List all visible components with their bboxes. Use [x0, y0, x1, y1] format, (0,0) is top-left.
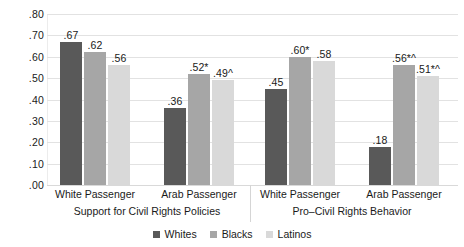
bar-chart: .80.70.60.50.40.30.20.10.00 .67.62.56.36…	[0, 0, 464, 247]
bar-value-label: .51*^	[405, 63, 451, 75]
y-axis-tick-label: .80	[4, 8, 44, 20]
bar	[289, 57, 311, 185]
y-axis-tick-label: .40	[4, 94, 44, 106]
bar	[212, 80, 234, 185]
panel-label: Support for Civil Rights Policies	[42, 205, 252, 217]
bar	[313, 61, 335, 185]
bar-value-label: .49^	[200, 67, 246, 79]
bar	[265, 89, 287, 185]
y-axis-tick-label: .10	[4, 158, 44, 170]
chart-legend: WhitesBlacksLatinos	[0, 226, 464, 242]
bar-value-label: .58	[301, 48, 347, 60]
bar-value-label: .62	[72, 39, 118, 51]
panel-labels: Support for Civil Rights PoliciesPro–Civ…	[47, 203, 458, 222]
legend-item: Latinos	[266, 228, 312, 240]
legend-label: Whites	[165, 228, 197, 240]
bar-value-label: .56	[96, 52, 142, 64]
bars-layer: .67.62.56.36.52*.49^.45.60*.58.18.56*^.5…	[47, 14, 458, 185]
bar	[84, 52, 106, 185]
legend-swatch-icon	[153, 231, 160, 238]
plot-area: .67.62.56.36.52*.49^.45.60*.58.18.56*^.5…	[47, 14, 458, 185]
bar	[393, 65, 415, 185]
bar	[417, 76, 439, 185]
x-axis-category-label: Arab Passenger	[149, 188, 249, 200]
legend-label: Blacks	[222, 228, 253, 240]
bar	[188, 74, 210, 185]
bar	[108, 65, 130, 185]
bar	[369, 147, 391, 185]
y-axis-tick-label: .00	[4, 179, 44, 191]
bar	[60, 42, 82, 185]
panel-divider	[250, 185, 251, 222]
panel-label: Pro–Civil Rights Behavior	[247, 205, 457, 217]
y-axis-tick-label: .50	[4, 72, 44, 84]
y-axis-tick-label: .60	[4, 51, 44, 63]
y-axis-tick-label: .70	[4, 29, 44, 41]
legend-label: Latinos	[278, 228, 312, 240]
legend-item: Blacks	[210, 228, 253, 240]
legend-item: Whites	[153, 228, 197, 240]
x-axis-category-label: White Passenger	[250, 188, 350, 200]
legend-swatch-icon	[210, 231, 217, 238]
x-axis-category-label: Arab Passenger	[354, 188, 454, 200]
y-axis-tick-label: .30	[4, 115, 44, 127]
legend-swatch-icon	[266, 231, 273, 238]
bar	[164, 108, 186, 185]
category-labels: White PassengerArab PassengerWhite Passe…	[47, 186, 458, 203]
x-axis-category-label: White Passenger	[45, 188, 145, 200]
y-axis-tick-label: .20	[4, 136, 44, 148]
y-axis: .80.70.60.50.40.30.20.10.00	[0, 14, 44, 185]
